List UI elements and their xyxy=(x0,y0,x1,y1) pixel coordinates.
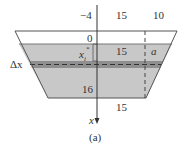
label-top-10: 10 xyxy=(153,10,164,21)
trough-empty-region xyxy=(15,31,177,44)
trough-diagram xyxy=(0,0,187,149)
label-delta-x: Δx xyxy=(10,59,23,70)
label-water-15: 15 xyxy=(116,46,127,57)
label-minus-4: −4 xyxy=(80,10,92,21)
label-a: a xyxy=(151,46,157,57)
x-axis-arrow-icon xyxy=(95,118,100,124)
water-region xyxy=(19,44,172,98)
figure-caption: (a) xyxy=(89,132,101,143)
label-top-15: 15 xyxy=(116,10,127,21)
label-depth-16: 16 xyxy=(82,84,93,95)
label-axis-x: x xyxy=(89,115,94,126)
label-xi-star: xi* xyxy=(79,48,89,63)
label-bottom-15: 15 xyxy=(116,102,127,113)
label-zero: 0 xyxy=(87,33,93,44)
